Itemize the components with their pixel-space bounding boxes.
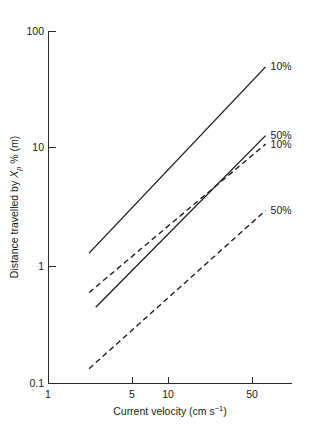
series-label-10-percent-solid: 10% xyxy=(271,60,292,72)
y-tick-labels: 100 10 1 0.1 xyxy=(26,25,44,389)
x-tick-label-10: 10 xyxy=(162,388,174,400)
x-tick-labels: 1 5 10 50 xyxy=(45,388,258,400)
series-line-50-percent-dashed xyxy=(89,210,265,368)
y-tick-label-100: 100 xyxy=(26,25,44,37)
series-line-50-percent-solid xyxy=(96,136,266,308)
x-axis-title: Current velocity (cm s−1) xyxy=(113,404,227,417)
log-log-line-chart: 100 10 1 0.1 1 5 10 50 10% 50% 10% 50% C… xyxy=(0,0,310,432)
chart-figure: 100 10 1 0.1 1 5 10 50 10% 50% 10% 50% C… xyxy=(0,0,310,432)
series-label-50-percent-dashed: 50% xyxy=(271,204,292,216)
y-tick-marks xyxy=(49,32,57,384)
x-tick-label-50: 50 xyxy=(246,388,258,400)
x-tick-label-1: 1 xyxy=(45,388,51,400)
y-axis-title: Distance travelled by Xp % (m) xyxy=(8,136,23,279)
y-tick-label-10: 10 xyxy=(32,141,44,153)
series-annotations: 10% 50% 10% 50% xyxy=(271,60,292,216)
x-tick-label-5: 5 xyxy=(129,388,135,400)
series-line-10-percent-dashed xyxy=(89,144,265,292)
series-label-10-percent-dashed: 10% xyxy=(271,138,292,150)
axes-group xyxy=(48,31,292,384)
y-tick-label-0.1: 0.1 xyxy=(29,377,44,389)
y-tick-label-1: 1 xyxy=(38,260,44,272)
data-series-group xyxy=(89,67,265,369)
x-tick-marks xyxy=(133,377,253,384)
